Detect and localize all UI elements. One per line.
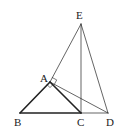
label-A: A [40, 72, 48, 84]
segment-AD [50, 82, 108, 113]
right-angle-mark-BAC [47, 85, 53, 88]
geometry-diagram: E A B C D [0, 0, 126, 134]
segment-AC [50, 82, 81, 113]
segment-ED [81, 24, 108, 113]
segment-EA [50, 24, 81, 82]
label-C: C [77, 116, 84, 128]
segment-AB [20, 82, 50, 113]
label-B: B [14, 116, 21, 128]
label-E: E [76, 9, 83, 21]
label-D: D [106, 116, 114, 128]
